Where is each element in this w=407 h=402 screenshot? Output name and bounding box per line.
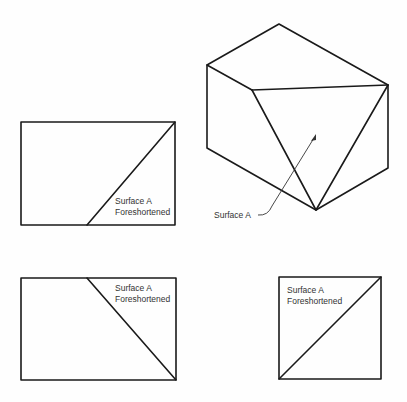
arrowhead-icon [311, 134, 316, 141]
label-line: Foreshortened [115, 207, 170, 218]
label-line: Surface A [115, 196, 170, 207]
top-view-label: Surface A Foreshortened [115, 283, 170, 305]
front-view-label: Surface A Foreshortened [115, 196, 170, 218]
label-line: Foreshortened [115, 294, 170, 305]
isometric-view [207, 24, 388, 215]
label-line: Foreshortened [287, 296, 342, 307]
diagram-canvas: Surface A Surface A Foreshortened Surfac… [0, 0, 407, 402]
isometric-surface-label: Surface A [214, 210, 251, 221]
label-line: Surface A [115, 283, 170, 294]
label-line: Surface A [287, 285, 342, 296]
side-view-label: Surface A Foreshortened [287, 285, 342, 307]
drawing [0, 0, 407, 402]
